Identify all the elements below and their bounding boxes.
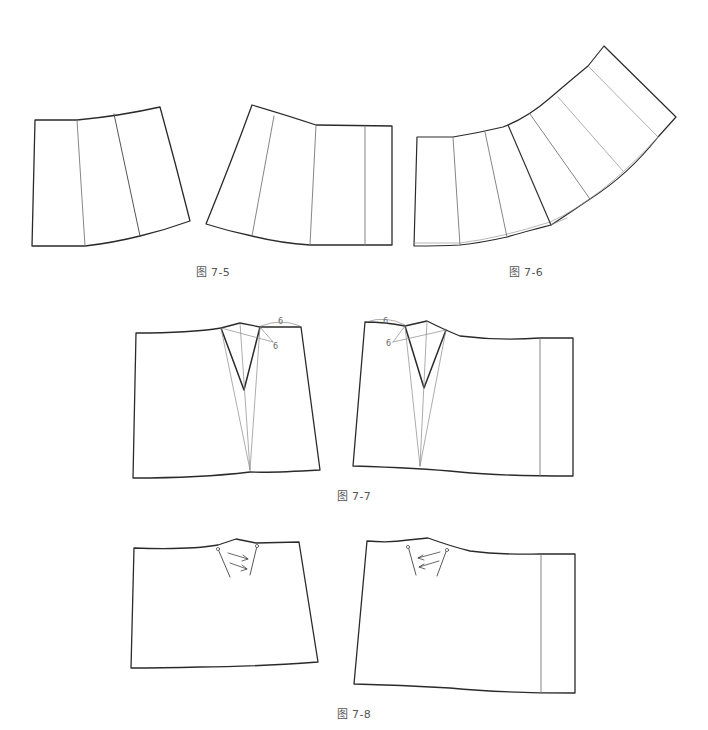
figure-caption-7-5: 图 7-5 — [196, 263, 230, 279]
fig-7-7-right-dim-top: 6 — [383, 317, 388, 326]
fig-7-5-right-piece — [206, 105, 392, 245]
fig-7-6-fan-piece — [414, 46, 676, 246]
figure-caption-7-6: 图 7-6 — [509, 263, 543, 279]
pattern-diagram-canvas: 6 6 6 6 — [0, 0, 708, 730]
fig-7-8-left-block — [131, 539, 318, 668]
fig-7-8-right-arrows — [418, 552, 440, 569]
figure-caption-7-7: 图 7-7 — [337, 487, 371, 503]
fig-7-5-left-piece — [32, 107, 190, 246]
figure-caption-7-8: 图 7-8 — [337, 705, 371, 721]
fig-7-8-right-block — [354, 538, 575, 693]
fig-7-8-left-arrows — [228, 553, 248, 571]
fig-7-7-left-dim-side: 6 — [273, 342, 278, 351]
fig-7-7-left-block — [133, 322, 320, 478]
fig-7-7-left-dim-top: 6 — [278, 317, 283, 326]
fig-7-7-right-dim-side: 6 — [386, 339, 391, 348]
